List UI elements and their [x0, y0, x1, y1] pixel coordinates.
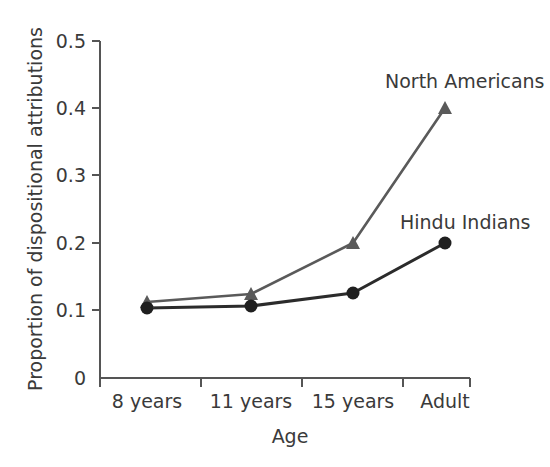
x-tick-label-15-years: 15 years: [312, 390, 395, 412]
series-annotation-hindu-indians: Hindu Indians: [400, 211, 530, 233]
y-tick-label-5: 0.5: [56, 30, 86, 52]
series-line-north-americans: [147, 108, 445, 302]
x-tick-label-11-years: 11 years: [210, 390, 293, 412]
x-axis-title: Age: [272, 425, 309, 447]
series-annotation-north-americans: North Americans: [385, 70, 545, 92]
y-tick-label-2: 0.2: [56, 232, 86, 254]
y-tick-label-3: 0.3: [56, 164, 86, 186]
chart-figure: 0 0.1 0.2 0.3 0.4 0.5 8 years 11 years 1…: [0, 0, 550, 467]
y-tick-label-4: 0.4: [56, 97, 86, 119]
marker-hindu-indians-11-years: [245, 300, 258, 313]
marker-hindu-indians-8-years: [141, 302, 154, 315]
marker-hindu-indians-adult: [439, 237, 452, 250]
line-chart: 0 0.1 0.2 0.3 0.4 0.5 8 years 11 years 1…: [0, 0, 550, 467]
y-tick-label-1: 0.1: [56, 299, 86, 321]
y-tick-label-0: 0: [74, 367, 86, 389]
marker-north-americans-adult: [438, 101, 452, 114]
x-tick-label-adult: Adult: [420, 390, 470, 412]
marker-hindu-indians-15-years: [347, 287, 360, 300]
x-tick-label-8-years: 8 years: [112, 390, 182, 412]
y-axis-title: Proportion of dispositional attributions: [24, 27, 46, 391]
